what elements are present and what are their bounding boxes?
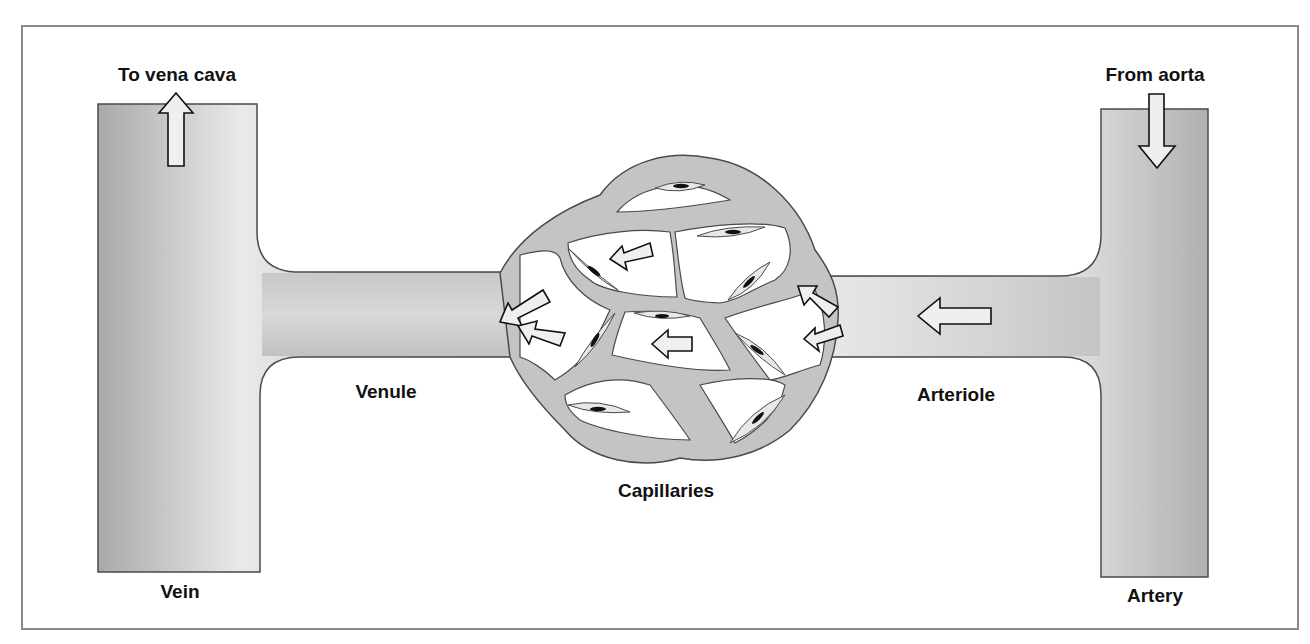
label-to-vena-cava: To vena cava bbox=[118, 64, 236, 86]
label-vein: Vein bbox=[160, 581, 199, 603]
label-arteriole: Arteriole bbox=[917, 384, 995, 406]
label-venule: Venule bbox=[355, 381, 416, 403]
label-artery: Artery bbox=[1127, 585, 1183, 607]
vein-venule-vessel bbox=[98, 104, 512, 572]
label-from-aorta: From aorta bbox=[1105, 64, 1204, 86]
circulation-diagram bbox=[0, 0, 1310, 644]
capillary-bed bbox=[500, 155, 838, 463]
artery-arteriole-vessel bbox=[825, 109, 1208, 577]
label-capillaries: Capillaries bbox=[618, 480, 714, 502]
